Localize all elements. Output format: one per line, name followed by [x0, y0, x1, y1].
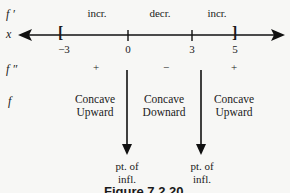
f-row-label: f	[8, 94, 11, 109]
fdouble-row-label: f ″	[6, 62, 17, 77]
fprime-row-label: f ′	[6, 7, 15, 22]
inflection-label-2: pt. of infl.	[190, 160, 213, 186]
fprime-interval-2: decr.	[149, 7, 170, 19]
fdouble-sign-1: +	[93, 61, 99, 73]
concavity-3: Concave Upward	[214, 93, 254, 119]
tick-label-0: 0	[125, 43, 131, 55]
fdouble-sign-2: −	[163, 61, 169, 73]
down-arrow-icon	[196, 144, 206, 155]
tick-label-3: 3	[189, 43, 195, 55]
x-row-label: x	[6, 27, 11, 42]
tick-label-neg3: −3	[58, 43, 70, 55]
right-bracket: ]	[232, 24, 237, 42]
left-bracket: [	[58, 24, 63, 42]
fdouble-sign-3: +	[231, 61, 237, 73]
inflection-label-1: pt. of infl.	[115, 160, 138, 186]
figure-caption: Figure 7.2.20	[104, 184, 183, 193]
fprime-interval-3: incr.	[207, 7, 226, 19]
concavity-2: Concave Downard	[143, 93, 186, 119]
down-arrow-icon	[122, 144, 132, 155]
tick-label-5: 5	[232, 43, 238, 55]
concavity-1: Concave Upward	[75, 93, 115, 119]
fprime-interval-1: incr.	[87, 7, 106, 19]
